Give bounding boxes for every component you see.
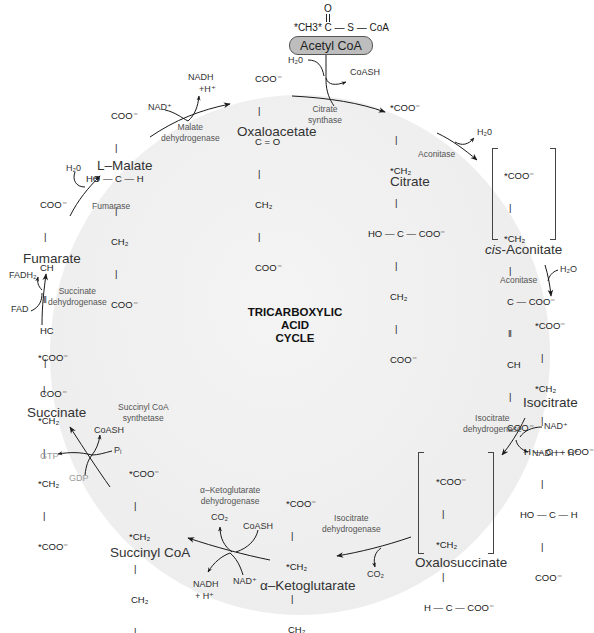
enzyme-aconitase-1: Aconitase [418, 149, 455, 160]
enzyme-line: dehydrogenase [48, 297, 107, 308]
struct-line: | [255, 169, 282, 180]
isocitrate-label: Isocitrate [523, 396, 578, 410]
enzyme-line: Aconitase [418, 149, 455, 160]
enzyme-line: dehydrogenase [200, 496, 260, 507]
enzyme-line: synthase [308, 115, 342, 126]
struct-line: | [86, 269, 144, 280]
cofactor-nadh-akg-dh: NADH [193, 580, 219, 589]
struct-line: | [255, 106, 282, 117]
enzyme-line: Isocitrate [322, 513, 381, 524]
struct-line: *COO⁻ [286, 499, 316, 510]
struct-line: | [40, 232, 67, 243]
cofactor-coash-citrate-synthase: CoASH [350, 68, 380, 77]
enzyme-line: synthetase [118, 413, 169, 424]
succinyl-coa-label: Succinyl CoA [110, 546, 190, 560]
struct-line: HO — C — COO⁻ [368, 229, 445, 240]
cofactor-fadh2: FADH₂ [9, 271, 37, 280]
cofactor-coash-succinyl-coa-synthetase: CoASH [94, 426, 124, 435]
struct-line: H — C — COO⁻ [424, 603, 494, 614]
struct-line: COO⁻ [368, 355, 445, 366]
struct-line: CH₂ [129, 595, 171, 606]
struct-line: | [368, 261, 445, 272]
enzyme-line: dehydrogenase [161, 133, 220, 144]
struct-line: *COO⁻ [368, 103, 445, 114]
acetyl-coa-label: Acetyl CoA [289, 36, 373, 55]
struct-line: | [38, 511, 68, 522]
succinyl-coa-structure: *COO⁻ | *CH₂ | CH₂ | C = O | S — CoA [129, 448, 171, 633]
struct-line: HO — C — H [86, 174, 144, 185]
cofactor-nadh-malate-dh: NADH [188, 73, 214, 82]
cofactor-coash-akg-dh: CoASH [243, 522, 273, 531]
struct-line: *COO⁻ [520, 321, 594, 332]
struct-line: *COO⁻ [424, 477, 494, 488]
cofactor-nad-akg-dh: NAD⁺ [233, 577, 257, 586]
struct-line: COO⁻ [255, 74, 282, 85]
struct-line: | [368, 324, 445, 335]
enzyme-succinate-dehydrogenase: Succinate dehydrogenase [48, 286, 107, 307]
enzyme-line: Aconitase [500, 275, 537, 286]
struct-line: | [520, 479, 594, 490]
cis-prefix: cis [485, 242, 502, 257]
oxalosuccinate-structure: *COO⁻ | *CH₂ | H — C — COO⁻ | C = O | CO… [424, 456, 494, 633]
enzyme-line: Isocitrate [463, 413, 522, 424]
struct-line: | [424, 509, 494, 520]
aconitate-suffix: -Aconitate [502, 242, 563, 257]
struct-line: | [504, 203, 555, 214]
alpha-ketoglutarate-structure: *COO⁻ | *CH₂ | CH₂ | C = O | COO⁻ [286, 478, 316, 633]
enzyme-alpha-ketoglutarate-dehydrogenase: α–Ketoglutarate dehydrogenase [200, 485, 260, 506]
struct-line: | [86, 143, 144, 154]
cofactor-fad: FAD [11, 305, 29, 314]
enzyme-isocitrate-dehydrogenase-2: Isocitrate dehydrogenase [322, 513, 381, 534]
cycle-title: TRICARBOXYLIC ACID CYCLE [240, 306, 350, 346]
struct-line: CH₂ [86, 237, 144, 248]
acetyl-coa-formula: *CH3* C — S — CoA [294, 23, 389, 33]
struct-line: *CH₂ [129, 532, 171, 543]
struct-line: | [129, 564, 171, 575]
enzyme-aconitase-2: Aconitase [500, 275, 537, 286]
struct-line: *CH₂ [520, 384, 594, 395]
cofactor-co2-isocitrate-dh: CO₂ [367, 570, 384, 579]
struct-line: COO⁻ [520, 573, 594, 584]
struct-line: *CH₂ [286, 562, 316, 573]
struct-line: | [286, 594, 316, 605]
enzyme-citrate-synthase: Citrate synthase [308, 104, 342, 125]
oxalosuccinate-label: Oxalosuccinate [415, 556, 507, 570]
struct-line: | [286, 531, 316, 542]
struct-line: HO — C — H [520, 510, 594, 521]
enzyme-line: Succinate [48, 286, 107, 297]
struct-line: | [368, 198, 445, 209]
enzyme-line: Succinyl CoA [118, 402, 169, 413]
struct-line: *CH₂ [424, 540, 494, 551]
oxaloacetate-structure: COO⁻ | C = O | CH₂ | COO⁻ [255, 53, 282, 295]
enzyme-malate-dehydrogenase: Malate dehydrogenase [161, 122, 220, 143]
struct-line: | [40, 358, 67, 369]
struct-line: HC [40, 326, 67, 337]
struct-line: CH₂ [255, 200, 282, 211]
cis-aconitate-label: cis-Aconitate [485, 243, 562, 257]
cofactor-h-malate-dh: +H⁺ [199, 85, 216, 94]
oxaloacetate-label: Oxaloacetate [237, 125, 317, 139]
enzyme-line: dehydrogenase [463, 424, 522, 435]
cofactor-co2-akg-dh: CO₂ [211, 513, 228, 522]
cofactor-nadh-isocitrate-dh: NADH + H⁺ [532, 449, 579, 458]
enzyme-line: dehydrogenase [322, 524, 381, 535]
cofactor-gdp-succinyl-coa-synthetase: GDP [69, 474, 89, 483]
cofactor-pi-succinyl-coa-synthetase: Pᵢ [114, 446, 121, 455]
struct-line: | [129, 501, 171, 512]
struct-line: COO⁻ [255, 263, 282, 274]
struct-line: *COO⁻ [38, 542, 68, 553]
cofactor-h-akg-dh: + H⁺ [195, 592, 214, 601]
enzyme-line: Malate [161, 122, 220, 133]
enzyme-line: α–Ketoglutarate [200, 485, 260, 496]
tca-cycle-diagram: O *CH3* C — S — CoA Acetyl CoA COO⁻ | C … [0, 0, 594, 633]
left-bracket [492, 148, 498, 240]
cofactor-nad-isocitrate-dh: NAD⁺ [544, 422, 568, 431]
enzyme-succinyl-coa-synthetase: Succinyl CoA synthetase [118, 402, 169, 423]
cofactor-h2o-aconitase-1: H₂0 [477, 128, 492, 137]
citrate-label: Citrate [390, 175, 430, 189]
title-line: CYCLE [240, 332, 350, 345]
title-line: TRICARBOXYLIC [240, 306, 350, 319]
struct-line: COO⁻ [86, 111, 144, 122]
struct-line: *CH₂ [38, 479, 68, 490]
alpha-ketoglutarate-label: α–Ketoglutarate [260, 579, 356, 593]
